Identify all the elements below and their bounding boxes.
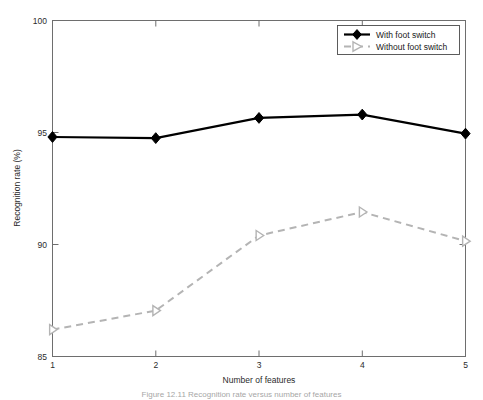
recognition-rate-line-chart: 100 95 90 85 1 2 3 4 5 Number of feature… <box>0 0 483 400</box>
chart-legend[interactable]: With foot switch Without foot switch <box>338 26 460 55</box>
x-axis-ticks <box>53 21 466 357</box>
x-tick-label-5: 5 <box>463 360 468 370</box>
series-line-without-foot-switch <box>53 212 466 330</box>
y-tick-label-95: 95 <box>38 128 48 138</box>
y-tick-label-100: 100 <box>33 16 47 26</box>
x-tick-label-1: 1 <box>50 360 55 370</box>
y-axis-ticks <box>53 21 466 357</box>
y-tick-label-85: 85 <box>38 352 48 362</box>
x-tick-label-4: 4 <box>360 360 365 370</box>
data-point-marker <box>50 325 58 335</box>
legend-label-without-foot-switch: Without foot switch <box>376 42 448 52</box>
figure-container: 100 95 90 85 1 2 3 4 5 Number of feature… <box>0 0 483 400</box>
legend-label-with-foot-switch: With foot switch <box>376 30 436 40</box>
data-point-marker <box>256 231 264 241</box>
data-point-marker <box>358 109 367 120</box>
plot-frame <box>53 21 466 357</box>
data-point-marker <box>254 113 263 124</box>
x-tick-label-2: 2 <box>153 360 158 370</box>
data-point-marker <box>151 133 160 144</box>
y-axis-title: Recognition rate (%) <box>12 149 22 227</box>
data-point-marker <box>48 132 57 143</box>
figure-caption: Figure 12.11 Recognition rate versus num… <box>0 389 483 400</box>
x-axis-title: Number of features <box>223 375 296 385</box>
y-tick-label-90: 90 <box>38 240 48 250</box>
series-markers-without-foot-switch <box>50 207 471 335</box>
data-point-marker <box>359 207 367 217</box>
data-point-marker <box>463 236 471 246</box>
x-tick-label-3: 3 <box>257 360 262 370</box>
data-point-marker <box>461 128 470 139</box>
